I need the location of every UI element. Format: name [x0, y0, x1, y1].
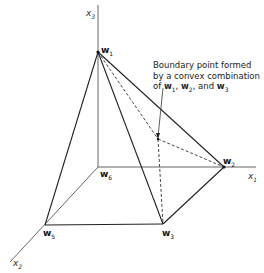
x2-axis	[10, 167, 98, 262]
boundary-point-annotation: Boundary point formed by a convex combin…	[153, 60, 260, 95]
vertex-w3-label: w3	[162, 228, 174, 242]
annotation-line-1: Boundary point formed	[153, 60, 260, 71]
vertex-w2-label: w2	[223, 156, 235, 170]
annotation-line-2: by a convex combination	[153, 71, 260, 82]
x1-axis-label: x1	[248, 171, 257, 185]
annotation-line-3: of w1, w2, and w3	[153, 81, 260, 95]
vertex-w1-label: w1	[101, 45, 113, 59]
vertex-w1-dot	[96, 50, 99, 53]
boundary-point-dot	[157, 138, 159, 140]
polytope-diagram	[0, 0, 264, 273]
x2-axis-label: x2	[13, 258, 22, 272]
vertex-w5-label: w5	[43, 228, 55, 242]
vertex-w6-label: w6	[100, 169, 112, 183]
x3-axis-label: x3	[86, 8, 95, 22]
annotation-arrow	[158, 88, 163, 137]
